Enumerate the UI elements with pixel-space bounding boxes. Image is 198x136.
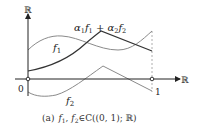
curve-linear-combination — [28, 31, 152, 71]
y-axis-label: ℝ — [24, 5, 32, 15]
origin-open-point — [26, 77, 30, 81]
one-open-point — [150, 77, 154, 81]
label-f2: f2 — [65, 95, 74, 108]
label-linear-combination: α1f1 + α2f2 — [74, 22, 126, 35]
curve-f2 — [28, 66, 152, 96]
one-label: 1 — [155, 87, 161, 97]
figure-caption: (a)f1, f2∈C((0, 1); ℝ) — [42, 113, 137, 124]
x-axis-label: ℝ — [181, 75, 189, 85]
function-space-diagram: ℝ ℝ 0 1 f1 f2 α1f1 + α2f2 (a)f1, f2∈C((0… — [0, 0, 198, 136]
origin-label: 0 — [18, 84, 24, 94]
label-f1: f1 — [52, 42, 61, 55]
